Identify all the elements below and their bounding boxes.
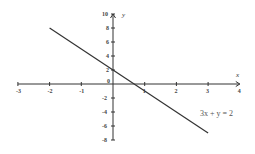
y-tick-label: -2 [102, 95, 107, 101]
x-tick-label: -1 [79, 88, 84, 94]
x-tick-label: -2 [48, 88, 53, 94]
equation-label: 3x + y = 2 [200, 109, 233, 118]
x-tick-label: 2 [174, 88, 177, 94]
x-tick-label: 3 [206, 88, 209, 94]
line-3x-plus-y-equals-2 [50, 28, 209, 133]
x-tick-label: 0 [107, 78, 110, 84]
y-tick-label: -8 [102, 137, 107, 143]
x-tick-label: 4 [238, 88, 241, 94]
y-tick-label: -4 [102, 109, 107, 115]
y-tick-label: -6 [102, 123, 107, 129]
y-tick-label: 10 [102, 11, 108, 17]
y-axis-label: y [121, 11, 126, 19]
coordinate-plane: -3-2-101234 108642-2-4-6-8 x y 3x + y = … [0, 0, 255, 154]
y-tick-label: 8 [106, 25, 109, 31]
y-tick-label: 6 [106, 39, 109, 45]
x-tick-label: -3 [16, 88, 21, 94]
line-series [50, 28, 209, 133]
y-tick-label: 2 [106, 67, 109, 73]
y-tick-label: 4 [106, 53, 109, 59]
x-axis [18, 82, 240, 87]
x-axis-label: x [235, 71, 240, 79]
y-axis [111, 14, 116, 140]
